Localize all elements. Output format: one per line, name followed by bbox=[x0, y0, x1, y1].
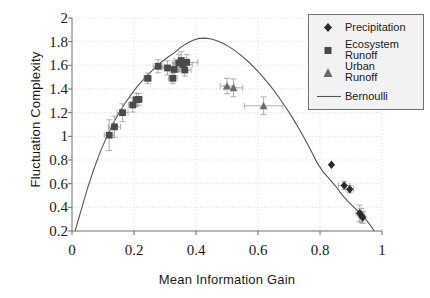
x-tick-label: 0.2 bbox=[114, 243, 154, 258]
legend-item[interactable]: UrbanRunoff bbox=[309, 63, 424, 85]
x-tick-label: 0 bbox=[52, 243, 92, 258]
x-tick-label: 0.4 bbox=[176, 243, 216, 258]
data-point bbox=[119, 109, 126, 116]
square-marker bbox=[315, 41, 341, 63]
legend-item[interactable]: Bernoulli bbox=[309, 87, 424, 109]
chart-figure: 0.20.40.60.811.21.41.61.82 00.20.40.60.8… bbox=[0, 0, 430, 298]
data-point bbox=[183, 59, 190, 66]
data-point bbox=[341, 181, 348, 190]
x-tick-label: 0.6 bbox=[238, 243, 278, 258]
x-axis-title: Mean Information Gain bbox=[72, 272, 382, 287]
data-point bbox=[169, 75, 176, 82]
data-point bbox=[181, 67, 188, 74]
diamond-marker bbox=[315, 18, 341, 40]
data-point bbox=[106, 132, 113, 139]
data-point bbox=[111, 123, 118, 130]
series-ecosystem-runoff bbox=[106, 57, 190, 138]
legend-item-label: EcosystemRunoff bbox=[345, 39, 424, 61]
legend-item-label: UrbanRunoff bbox=[345, 61, 424, 83]
x-tick-label: 1 bbox=[362, 243, 402, 258]
data-point bbox=[135, 96, 142, 103]
y-axis-title: Fluctuation Complexity bbox=[28, 10, 43, 230]
triangle-marker bbox=[315, 63, 341, 85]
data-point bbox=[164, 65, 171, 72]
x-tick-label: 0.8 bbox=[300, 243, 340, 258]
series-precipitation bbox=[328, 160, 366, 221]
legend-item-label: Bernoulli bbox=[345, 91, 424, 102]
line-swatch bbox=[315, 87, 341, 109]
data-point bbox=[144, 75, 151, 82]
data-point bbox=[155, 63, 162, 70]
legend-item[interactable]: Precipitation bbox=[309, 18, 424, 40]
x-axis-tick-labels: 00.20.40.60.81 bbox=[0, 243, 430, 263]
chart-legend: PrecipitationEcosystemRunoffUrbanRunoffB… bbox=[308, 14, 424, 110]
data-point bbox=[328, 160, 335, 169]
data-point bbox=[171, 66, 178, 73]
legend-item-label: Precipitation bbox=[345, 22, 424, 33]
data-point bbox=[346, 185, 353, 194]
